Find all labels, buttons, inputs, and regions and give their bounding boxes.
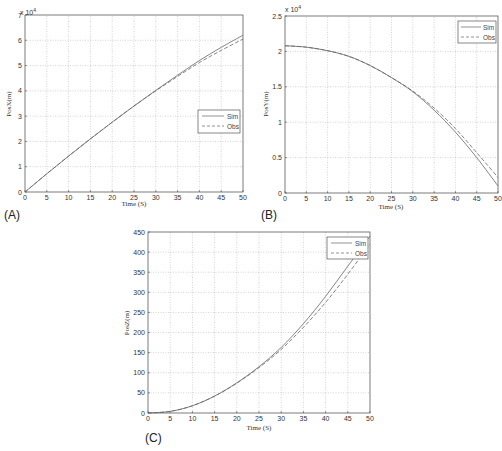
x-tick-label: 30 — [409, 195, 417, 202]
x-tick-label: 20 — [366, 195, 374, 202]
y-tick-label: 300 — [133, 289, 145, 296]
x-tick-label: 35 — [174, 194, 182, 201]
plot-c-ylabel: PosZ(m) — [123, 310, 131, 335]
x-tick-label: 50 — [366, 415, 374, 422]
x-tick-label: 25 — [255, 415, 263, 422]
y-tick-label: 1.5 — [272, 83, 282, 90]
plot-b-legend: Sim Obs — [458, 21, 496, 43]
x-tick-label: 50 — [239, 194, 247, 201]
y-tick-label: 450 — [133, 229, 145, 236]
plot-a-posx: 0510152025303540455001234567 — [18, 12, 247, 202]
figure: 0510152025303540455001234567 x 104 Time … — [0, 0, 502, 451]
plot-b-multiplier: x 104 — [285, 4, 301, 13]
x-tick-label: 5 — [168, 415, 172, 422]
x-tick-label: 45 — [344, 415, 352, 422]
plot-a-xlabel: Time (S) — [122, 200, 148, 208]
x-tick-label: 30 — [152, 194, 160, 201]
panel-label-c: (C) — [145, 431, 162, 445]
x-tick-label: 25 — [388, 195, 396, 202]
x-tick-label: 5 — [304, 195, 308, 202]
x-tick-label: 10 — [65, 194, 73, 201]
legend-obs: Obs — [483, 34, 496, 41]
y-tick-label: 4 — [18, 87, 22, 94]
legend-sim: Sim — [227, 113, 238, 120]
y-tick-label: 5 — [18, 62, 22, 69]
y-tick-label: 150 — [133, 349, 145, 356]
y-tick-label: 1 — [278, 119, 282, 126]
x-tick-label: 0 — [23, 194, 27, 201]
y-tick-label: 100 — [133, 369, 145, 376]
y-tick-label: 350 — [133, 269, 145, 276]
x-tick-label: 15 — [87, 194, 95, 201]
panel-label-b: (B) — [261, 208, 277, 222]
y-tick-label: 250 — [133, 309, 145, 316]
plot-c-legend: Sim Obs — [327, 237, 368, 259]
y-tick-label: 1 — [18, 163, 22, 170]
y-tick-label: 2 — [18, 138, 22, 145]
y-tick-label: 2 — [278, 48, 282, 55]
y-tick-label: 3 — [18, 113, 22, 120]
x-tick-label: 45 — [473, 195, 481, 202]
x-tick-label: 10 — [324, 195, 332, 202]
x-tick-label: 35 — [300, 415, 308, 422]
y-tick-label: 0 — [141, 410, 145, 417]
plot-b-ylabel: PosY(m) — [262, 91, 270, 117]
x-tick-label: 50 — [494, 195, 502, 202]
plot-a-legend: Sim Obs — [198, 110, 240, 133]
y-tick-label: 0 — [18, 189, 22, 196]
y-tick-label: 400 — [133, 249, 145, 256]
x-tick-label: 35 — [430, 195, 438, 202]
x-tick-label: 30 — [277, 415, 285, 422]
y-tick-label: 0.5 — [272, 154, 282, 161]
x-tick-label: 15 — [211, 415, 219, 422]
y-tick-label: 2.5 — [272, 13, 282, 20]
x-tick-label: 0 — [146, 415, 150, 422]
x-tick-label: 0 — [283, 195, 287, 202]
x-tick-label: 15 — [345, 195, 353, 202]
x-tick-label: 40 — [196, 194, 204, 201]
legend-obs: Obs — [227, 123, 240, 130]
x-tick-label: 5 — [45, 194, 49, 201]
legend-sim: Sim — [483, 24, 494, 31]
panel-label-a: (A) — [4, 208, 20, 222]
y-tick-label: 50 — [137, 389, 145, 396]
plot-b-xlabel: Time (S) — [379, 203, 405, 211]
y-tick-label: 6 — [18, 37, 22, 44]
x-tick-label: 20 — [233, 415, 241, 422]
y-tick-label: 0 — [278, 190, 282, 197]
x-tick-label: 40 — [322, 415, 330, 422]
plot-c-xlabel: Time (S) — [247, 424, 273, 432]
plot-a-ylabel: PosX(m) — [5, 91, 13, 117]
legend-obs: Obs — [355, 250, 368, 257]
y-tick-label: 200 — [133, 329, 145, 336]
x-tick-label: 40 — [452, 195, 460, 202]
x-tick-label: 45 — [217, 194, 225, 201]
legend-sim: Sim — [355, 240, 366, 247]
x-tick-label: 10 — [189, 415, 197, 422]
x-tick-label: 20 — [108, 194, 116, 201]
